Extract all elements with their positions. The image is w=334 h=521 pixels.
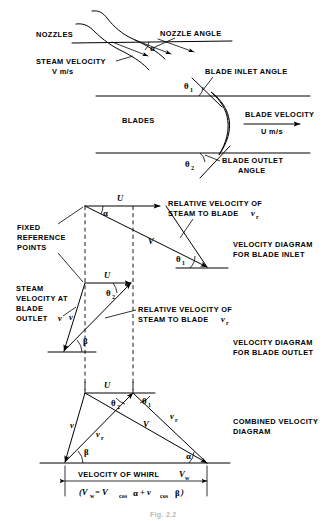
steam-velocity-leader — [116, 56, 133, 61]
inlet-theta1-arc — [190, 256, 195, 268]
outlet-diagram-title-line1: VELOCITY DIAGRAM — [233, 338, 313, 347]
outlet-beta-symbol: β — [83, 336, 88, 346]
outlet-relative-velocity-line2: STEAM TO BLADE — [138, 315, 208, 324]
blade-theta2-subscript: 2 — [191, 165, 194, 171]
formula-close: ) — [180, 487, 184, 497]
inlet-alpha-symbol: α — [103, 208, 108, 218]
combined-vr-outlet-subscript: r — [101, 435, 104, 441]
nozzle-alpha-symbol: α — [150, 43, 155, 53]
combined-vr-outlet-symbol: v — [96, 429, 100, 439]
fixed-reference-label-line1: FIXED — [17, 223, 41, 232]
outlet-u-label: U — [104, 270, 111, 280]
inlet-theta1-subscript: 1 — [182, 260, 185, 266]
blade-inlet-angle-leader — [203, 77, 213, 90]
combined-theta1-symbol: θ — [142, 396, 147, 406]
inlet-relative-velocity-subscript: r — [256, 214, 259, 220]
outlet-steam-velocity-line4: OUTLET — [16, 314, 48, 323]
blade-theta2-arc — [200, 153, 205, 162]
combined-diagram-title-line2: DIAGRAM — [233, 427, 271, 436]
outlet-diagram-title-line2: FOR BLADE OUTLET — [233, 348, 313, 357]
outlet-velocity-diagram: U v θ 2 β STEAM VELOCITY AT BLADE OUTLET… — [16, 270, 313, 357]
whirl-label: VELOCITY OF WHIRL — [78, 470, 159, 479]
formula-beta-symbol: β — [175, 488, 180, 498]
fixed-reference-leader-upper — [58, 207, 83, 224]
combined-theta2-subscript: 2 — [117, 404, 120, 410]
blade-velocity-label: BLADE VELOCITY — [245, 110, 314, 119]
inlet-relative-velocity-label-line1: RELATIVE VELOCITY OF — [168, 199, 262, 208]
nozzle-angle-label: NOZZLE ANGLE — [160, 29, 221, 38]
blade-theta2-symbol: θ — [185, 159, 190, 169]
inlet-relative-velocity-leader — [180, 219, 193, 238]
steam-velocity-label: STEAM VELOCITY — [36, 57, 106, 66]
outlet-beta-arc — [77, 340, 82, 352]
outlet-theta2-subscript: 2 — [112, 294, 115, 300]
outlet-steam-velocity-line1: STEAM — [16, 284, 44, 293]
outlet-steam-velocity-line3: BLADE — [16, 304, 43, 313]
combined-alpha-symbol: α — [186, 451, 191, 461]
formula-cos-alpha: cos — [119, 493, 128, 499]
blade-profile — [211, 92, 230, 155]
inlet-diagram-title-line1: VELOCITY DIAGRAM — [233, 240, 313, 249]
formula-plus-v: + v — [140, 487, 151, 497]
blade-velocity-value: U m/s — [261, 127, 283, 136]
fixed-reference-label-line2: REFERENCE — [17, 233, 66, 242]
blade-inlet-angle-label: BLADE INLET ANGLE — [205, 67, 287, 76]
blade-theta1-symbol: θ — [184, 81, 189, 91]
whirl-subscript: w — [185, 475, 190, 481]
steam-flow-arrow-3 — [158, 39, 194, 52]
blades-label: BLADES — [122, 116, 155, 125]
formula-alpha-symbol: α — [133, 488, 138, 498]
combined-velocity-diagram: U v v r V v r θ 2 θ 1 β α COMBINED VELO — [40, 380, 318, 499]
combined-beta-symbol: β — [84, 447, 89, 457]
outlet-relative-velocity-leader — [105, 310, 136, 318]
combined-vr-inlet-symbol: v — [170, 411, 174, 421]
outlet-theta2-symbol: θ — [106, 288, 111, 298]
inlet-diagram-title-line2: FOR BLADE INLET — [233, 250, 305, 259]
combined-vr-inlet-subscript: r — [175, 417, 178, 423]
blade-theta1-subscript: 1 — [190, 87, 193, 93]
inlet-velocity-diagram: U V α θ 1 RELATIVE VELOCITY OF STEAM TO … — [17, 193, 313, 282]
fixed-reference-lines — [85, 206, 133, 393]
blade-outlet-angle-label-line2: ANGLE — [238, 166, 266, 175]
fixed-reference-label-line3: POINTS — [17, 243, 47, 252]
steam-velocity-value: V m/s — [52, 67, 73, 76]
fixed-reference-leader-lower — [58, 253, 83, 282]
outlet-v-label: v — [69, 312, 73, 322]
outlet-relative-velocity-symbol: v — [221, 314, 225, 324]
nozzles-label: NOZZLES — [36, 30, 73, 39]
outlet-steam-velocity-symbol: v — [58, 313, 62, 323]
inlet-u-label: U — [117, 193, 124, 203]
blade-outlet-angle-leader — [205, 155, 220, 161]
formula-open: (V — [79, 487, 89, 497]
formula-equals: = V — [95, 487, 109, 497]
outlet-steam-velocity-line2: VELOCITY AT — [16, 294, 68, 303]
blade-inlet-tangent — [192, 78, 222, 107]
inlet-relative-velocity-symbol: v — [251, 208, 255, 218]
outlet-theta2-arc — [113, 283, 117, 293]
combined-beta-arc — [78, 451, 83, 463]
turbine-velocity-figure: α NOZZLES NOZZLE ANGLE STEAM VELOCITY V … — [0, 0, 334, 521]
outlet-relative-velocity-subscript: r — [226, 320, 229, 326]
blade-section: θ 1 θ 2 BLADES BLADE INLET ANGLE BLADE O… — [96, 67, 314, 178]
blade-outlet-angle-label-line1: BLADE OUTLET — [222, 156, 283, 165]
combined-v-inlet-label: V — [143, 419, 150, 429]
formula-cos-beta: cos — [160, 493, 169, 499]
nozzle-section: α NOZZLES NOZZLE ANGLE STEAM VELOCITY V … — [36, 11, 232, 76]
combined-v-outlet-label: v — [70, 420, 74, 430]
inlet-relative-velocity-label-line2: STEAM TO BLADE — [168, 209, 238, 218]
combined-theta1-subscript: 1 — [148, 402, 151, 408]
outlet-relative-velocity-line1: RELATIVE VELOCITY OF — [138, 305, 232, 314]
figure-caption: Fig. 2.2 — [150, 511, 177, 519]
combined-theta2-symbol: θ — [111, 398, 116, 408]
inlet-theta1-symbol: θ — [176, 254, 181, 264]
combined-u-label: U — [104, 380, 111, 390]
figure-canvas: α NOZZLES NOZZLE ANGLE STEAM VELOCITY V … — [0, 0, 334, 521]
combined-diagram-title-line1: COMBINED VELOCITY — [233, 417, 318, 426]
